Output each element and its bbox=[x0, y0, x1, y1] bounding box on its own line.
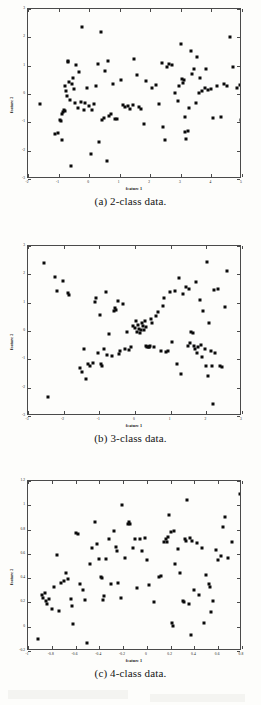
y-tick-mark bbox=[237, 530, 240, 531]
axes-frame-a bbox=[27, 8, 241, 178]
x-tick-mark bbox=[181, 174, 182, 177]
scatter-canvas-a bbox=[28, 9, 240, 177]
data-point bbox=[116, 300, 119, 303]
data-point bbox=[119, 596, 122, 599]
y-tick-mark bbox=[28, 505, 31, 506]
data-point bbox=[204, 364, 207, 367]
x-tick-label: 4 bbox=[209, 180, 211, 184]
data-point bbox=[131, 103, 134, 106]
data-point bbox=[217, 558, 220, 561]
data-point bbox=[192, 68, 195, 71]
data-point bbox=[75, 64, 78, 67]
data-point bbox=[201, 356, 204, 359]
data-point bbox=[235, 86, 238, 89]
y-tick-label: 3 bbox=[2, 243, 25, 247]
data-point bbox=[109, 113, 112, 116]
x-tick-mark bbox=[52, 646, 53, 649]
data-point bbox=[83, 348, 86, 351]
data-point bbox=[71, 83, 74, 86]
x-tick-mark bbox=[150, 9, 151, 12]
data-point bbox=[226, 269, 229, 272]
x-tick-mark bbox=[99, 646, 100, 649]
data-point bbox=[162, 126, 165, 129]
data-point bbox=[191, 539, 194, 542]
data-point bbox=[107, 59, 110, 62]
data-point bbox=[177, 276, 180, 279]
data-point bbox=[129, 346, 132, 349]
data-point bbox=[135, 73, 138, 76]
data-point bbox=[186, 129, 189, 132]
data-point bbox=[64, 84, 67, 87]
data-point bbox=[174, 562, 177, 565]
x-tick-label: -1 bbox=[97, 417, 100, 421]
x-tick-mark bbox=[99, 246, 100, 249]
data-point bbox=[60, 138, 63, 141]
data-point bbox=[210, 611, 213, 614]
data-point bbox=[239, 83, 240, 86]
scan-smudge bbox=[8, 690, 128, 699]
data-point bbox=[166, 540, 169, 543]
y-tick-mark bbox=[237, 578, 240, 579]
y-tick-label: 0 bbox=[2, 328, 25, 332]
data-point bbox=[114, 545, 117, 548]
data-point bbox=[94, 301, 97, 304]
data-point bbox=[182, 79, 185, 82]
figure-caption-b: (b) 3-class data. bbox=[0, 432, 261, 444]
data-point bbox=[81, 371, 84, 374]
data-point bbox=[213, 288, 216, 291]
data-point bbox=[102, 117, 105, 120]
data-point bbox=[131, 546, 134, 549]
x-tick-mark bbox=[120, 174, 121, 177]
x-tick-label: -0.8 bbox=[48, 652, 54, 656]
data-point bbox=[87, 104, 90, 107]
data-point bbox=[191, 332, 194, 335]
data-point bbox=[108, 333, 111, 336]
y-tick-mark bbox=[28, 359, 31, 360]
data-point bbox=[212, 600, 215, 603]
plot-area-b: feature 1 feature 2 -3-2-10123-3-2-10123 bbox=[0, 237, 261, 430]
figure-b: feature 1 feature 2 -3-2-10123-3-2-10123… bbox=[0, 237, 261, 444]
data-point bbox=[143, 320, 146, 323]
data-point bbox=[200, 546, 203, 549]
y-tick-label: -1 bbox=[2, 119, 25, 123]
data-point bbox=[226, 556, 229, 559]
x-tick-mark bbox=[211, 174, 212, 177]
data-point bbox=[61, 279, 64, 282]
data-point bbox=[159, 350, 162, 353]
data-point bbox=[208, 585, 211, 588]
data-point bbox=[84, 599, 87, 602]
x-tick-mark bbox=[211, 9, 212, 12]
figure-c: feature 1 feature 2 -1-0.8-0.6-0.4-0.200… bbox=[0, 472, 261, 679]
data-point bbox=[189, 341, 192, 344]
data-point bbox=[207, 374, 210, 377]
data-point bbox=[169, 531, 172, 534]
data-point bbox=[63, 110, 66, 113]
data-point bbox=[82, 108, 85, 111]
data-point bbox=[72, 77, 75, 80]
x-tick-mark bbox=[76, 481, 77, 484]
x-tick-label: 0.6 bbox=[215, 652, 220, 656]
data-point bbox=[174, 91, 177, 94]
scatter-canvas-c bbox=[28, 481, 240, 649]
x-tick-label: 5 bbox=[240, 180, 242, 184]
data-point bbox=[176, 548, 179, 551]
data-point bbox=[144, 80, 147, 83]
data-point bbox=[60, 120, 63, 123]
data-point bbox=[129, 522, 132, 525]
data-point bbox=[91, 361, 94, 364]
data-point bbox=[85, 86, 88, 89]
y-tick-label: 0 bbox=[2, 624, 25, 628]
data-point bbox=[189, 49, 192, 52]
data-point bbox=[43, 591, 46, 594]
x-tick-mark bbox=[206, 246, 207, 249]
data-point bbox=[220, 116, 223, 119]
x-tick-mark bbox=[59, 174, 60, 177]
data-point bbox=[176, 362, 179, 365]
x-tick-mark bbox=[194, 646, 195, 649]
x-tick-mark bbox=[242, 246, 243, 249]
data-point bbox=[70, 165, 73, 168]
data-point bbox=[68, 293, 71, 296]
x-tick-mark bbox=[64, 411, 65, 414]
data-point bbox=[62, 579, 65, 582]
data-point bbox=[42, 596, 45, 599]
